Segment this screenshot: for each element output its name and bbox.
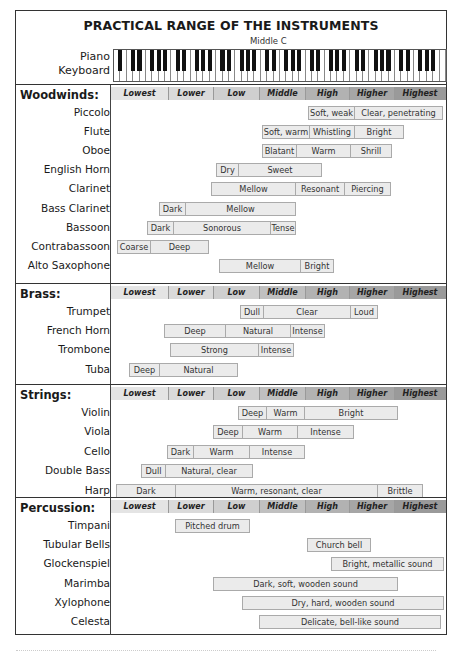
instrument-label: Alto Saxophone bbox=[28, 259, 110, 271]
instrument-label: Contrabassoon bbox=[31, 240, 110, 252]
black-key bbox=[361, 50, 365, 71]
range-header: LowestLowerLowMiddleHighHigherHighest bbox=[111, 387, 446, 400]
black-key bbox=[374, 50, 378, 71]
black-key bbox=[425, 50, 429, 71]
black-key bbox=[118, 50, 122, 71]
black-key bbox=[284, 50, 288, 71]
range-header-highest: Highest bbox=[395, 87, 446, 100]
range-segment: Dull bbox=[240, 305, 264, 319]
black-key bbox=[406, 50, 410, 71]
range-header-low: Low bbox=[214, 286, 260, 299]
range-segment: Dull bbox=[141, 464, 166, 478]
range-segment: Dark, soft, wooden sound bbox=[213, 577, 398, 591]
range-segment: Loud bbox=[350, 305, 378, 319]
black-key bbox=[195, 50, 199, 71]
black-key bbox=[182, 50, 186, 71]
instrument-label: Marimba bbox=[64, 577, 110, 589]
black-key bbox=[431, 50, 435, 71]
range-segment: Intense bbox=[249, 445, 305, 459]
range-segment: Strong bbox=[170, 343, 259, 357]
instrument-label: Trombone bbox=[58, 343, 110, 355]
black-key bbox=[131, 50, 135, 71]
range-segment: Natural bbox=[225, 324, 291, 338]
range-header-high: High bbox=[306, 286, 350, 299]
black-key bbox=[137, 50, 141, 71]
range-header-lower: Lower bbox=[169, 286, 214, 299]
section-divider bbox=[15, 497, 447, 498]
range-segment: Bright bbox=[300, 259, 334, 273]
range-segment: Warm bbox=[193, 445, 250, 459]
range-segment: Dark bbox=[159, 202, 186, 216]
range-segment: Mellow bbox=[185, 202, 296, 216]
range-segment: Warm bbox=[266, 406, 305, 420]
black-key bbox=[252, 50, 256, 71]
range-segment: Intense bbox=[290, 324, 325, 338]
range-header-higher: Higher bbox=[350, 286, 395, 299]
range-segment: Warm bbox=[296, 144, 351, 158]
range-header-lowest: Lowest bbox=[111, 286, 169, 299]
range-header-higher: Higher bbox=[350, 387, 395, 400]
range-header-middle: Middle bbox=[260, 387, 306, 400]
black-key bbox=[386, 50, 390, 71]
instrument-label: Bass Clarinet bbox=[41, 202, 110, 214]
range-segment: Delicate, bell-like sound bbox=[259, 615, 441, 629]
range-header-high: High bbox=[306, 387, 350, 400]
black-key bbox=[297, 50, 301, 71]
instrument-label: Trumpet bbox=[67, 305, 110, 317]
black-key bbox=[272, 50, 276, 71]
range-segment: Deep bbox=[129, 363, 160, 377]
instrument-label: Cello bbox=[84, 445, 110, 457]
range-header-highest: Highest bbox=[395, 500, 446, 513]
black-key bbox=[329, 50, 333, 71]
instrument-label: Piccolo bbox=[74, 106, 110, 118]
instrument-label: Flute bbox=[84, 125, 110, 137]
range-segment: Sonorous bbox=[173, 221, 271, 235]
keyboard-label-line2: Keyboard bbox=[58, 64, 110, 77]
black-key bbox=[163, 50, 167, 71]
instrument-label: Oboe bbox=[82, 144, 110, 156]
range-header-lowest: Lowest bbox=[111, 387, 169, 400]
range-segment: Intense bbox=[258, 343, 294, 357]
range-segment: Deep bbox=[150, 240, 209, 254]
range-segment: Bright bbox=[354, 125, 404, 139]
range-segment: Coarse bbox=[117, 240, 151, 254]
black-key bbox=[208, 50, 212, 71]
black-key bbox=[418, 50, 422, 71]
black-key bbox=[399, 50, 403, 71]
range-segment: Pitched drum bbox=[175, 519, 250, 533]
instrument-label: Violin bbox=[81, 406, 110, 418]
black-key bbox=[246, 50, 250, 71]
black-key bbox=[240, 50, 244, 71]
range-header-higher: Higher bbox=[350, 87, 395, 100]
range-header-high: High bbox=[306, 500, 350, 513]
middle-c-label: Middle C bbox=[250, 36, 287, 46]
black-key bbox=[310, 50, 314, 71]
range-segment: Soft, weak bbox=[308, 106, 355, 120]
range-segment: Bright bbox=[304, 406, 398, 420]
black-key bbox=[335, 50, 339, 71]
instrument-label: English Horn bbox=[44, 163, 110, 175]
keyboard-label-line1: Piano bbox=[80, 50, 110, 63]
black-key bbox=[150, 50, 154, 71]
range-segment: Deep bbox=[213, 425, 243, 439]
keyboard-divider bbox=[15, 84, 447, 85]
black-key bbox=[291, 50, 295, 71]
range-segment: Dark bbox=[147, 221, 174, 235]
range-segment: Resonant bbox=[295, 182, 345, 196]
range-segment: Church bell bbox=[307, 538, 371, 552]
black-key bbox=[342, 50, 346, 71]
range-segment: Piercing bbox=[344, 182, 391, 196]
instrument-label: Timpani bbox=[68, 519, 110, 531]
range-header-high: High bbox=[306, 87, 350, 100]
range-segment: Mellow bbox=[219, 259, 301, 273]
section-divider bbox=[15, 283, 447, 284]
instrument-label: Bassoon bbox=[66, 221, 110, 233]
range-header: LowestLowerLowMiddleHighHigherHighest bbox=[111, 286, 446, 299]
range-segment: Sweet bbox=[238, 163, 322, 177]
black-key bbox=[176, 50, 180, 71]
label-column-divider bbox=[110, 84, 111, 635]
range-header-lowest: Lowest bbox=[111, 500, 169, 513]
black-key bbox=[201, 50, 205, 71]
range-header-middle: Middle bbox=[260, 286, 306, 299]
range-segment: Dark bbox=[167, 445, 194, 459]
